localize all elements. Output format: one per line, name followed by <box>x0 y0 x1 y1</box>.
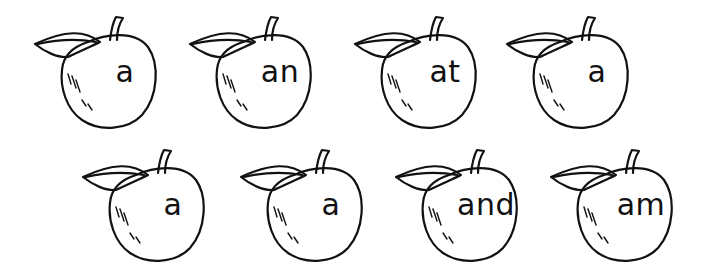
apple-card: an <box>185 12 315 137</box>
sight-word: a <box>562 54 632 89</box>
apple-card: a <box>78 145 208 270</box>
sight-word: and <box>451 187 521 222</box>
apple-card: a <box>236 145 366 270</box>
sight-word: a <box>296 187 366 222</box>
sight-word: a <box>90 54 160 89</box>
apple-card: a <box>502 12 632 137</box>
sight-word: am <box>606 187 676 222</box>
apple-card: a <box>30 12 160 137</box>
apple-card: am <box>546 145 676 270</box>
sight-word: at <box>410 54 480 89</box>
sight-word: a <box>138 187 208 222</box>
sight-word: an <box>245 54 315 89</box>
apple-card: at <box>350 12 480 137</box>
apple-card: and <box>391 145 521 270</box>
